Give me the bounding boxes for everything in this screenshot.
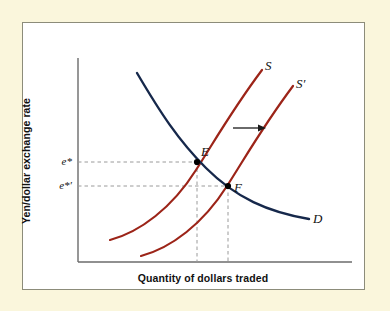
guidelines bbox=[78, 162, 228, 262]
x-axis-title: Quantity of dollars traded bbox=[78, 272, 328, 284]
axes bbox=[78, 58, 352, 262]
figure-root: Yen/dollar exchange rate Quantity of dol… bbox=[0, 0, 390, 311]
demand-curve-d bbox=[137, 73, 309, 219]
supply-curve-s bbox=[110, 70, 262, 240]
curve-label-supply-shifted: S′ bbox=[296, 76, 305, 92]
curve-label-supply: S bbox=[265, 58, 272, 74]
y-tick-label-e-star-prime: e*′ bbox=[38, 179, 72, 191]
point-label-e: E bbox=[201, 144, 209, 160]
y-tick-label-e-star: e* bbox=[40, 155, 72, 167]
y-axis-title: Yen/dollar exchange rate bbox=[20, 91, 32, 231]
supply-curve-s-prime bbox=[141, 86, 293, 256]
point-label-f: F bbox=[234, 180, 242, 196]
curve-label-demand: D bbox=[313, 211, 322, 227]
equilibrium-marker-f bbox=[225, 183, 231, 189]
equilibrium-marker-e bbox=[194, 159, 200, 165]
